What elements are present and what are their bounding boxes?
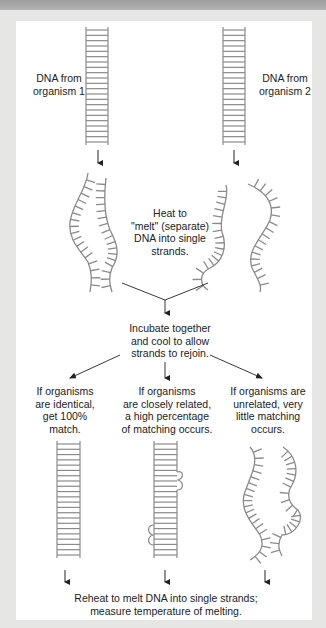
arrow-down-icon <box>98 150 234 163</box>
dna-hybrid-identical <box>57 441 80 558</box>
label-outcome-related: If organisms are closely related, a high… <box>114 385 220 435</box>
dna-single-strands-organism-1 <box>70 173 117 292</box>
label-dna-organism-1: DNA from organism 1 <box>22 72 96 97</box>
dna-double-strand-organism-2 <box>223 27 245 145</box>
converge-lines <box>122 283 208 313</box>
label-outcome-unrelated: If organisms are unrelated, very little … <box>220 385 316 435</box>
label-incubate-step: Incubate together and cool to allow stra… <box>110 322 230 360</box>
dna-hybrid-unrelated <box>243 447 300 563</box>
diagram-graphics <box>16 21 312 620</box>
label-heat-step: Heat to "melt" (separate) DNA into singl… <box>120 207 220 257</box>
arrow-down-icon <box>65 570 265 582</box>
label-reheat-step: Reheat to melt DNA into single strands; … <box>56 592 276 617</box>
dna-hybrid-closely-related <box>149 441 183 558</box>
diagram-panel: DNA from organism 1 DNA from organism 2 … <box>16 21 312 620</box>
label-dna-organism-2: DNA from organism 2 <box>248 72 322 97</box>
header-band <box>0 0 326 10</box>
label-outcome-identical: If organisms are identical, get 100% mat… <box>20 385 110 435</box>
